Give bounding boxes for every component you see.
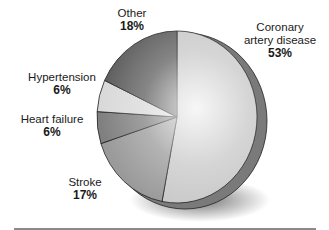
label-stroke-text: Stroke [68,176,101,188]
label-other-text: Other [118,7,147,19]
label-heart-failure: Heart failure 6% [16,113,88,139]
label-cad-line1: Coronary [256,21,303,33]
label-heart-failure-text: Heart failure [21,113,84,125]
label-cad-line2: artery disease [244,34,316,46]
label-other-pct: 18% [112,20,152,33]
label-cad-pct: 53% [238,47,322,60]
label-other: Other 18% [112,7,152,33]
bottom-rule [14,228,316,230]
label-stroke-pct: 17% [63,189,107,202]
label-hypertension: Hypertension 6% [24,71,100,97]
pie-slices [97,31,257,203]
label-hypertension-text: Hypertension [28,71,96,83]
label-cad: Coronary artery disease 53% [238,21,322,60]
label-heart-failure-pct: 6% [16,126,88,139]
label-hypertension-pct: 6% [24,84,100,97]
label-stroke: Stroke 17% [63,176,107,202]
